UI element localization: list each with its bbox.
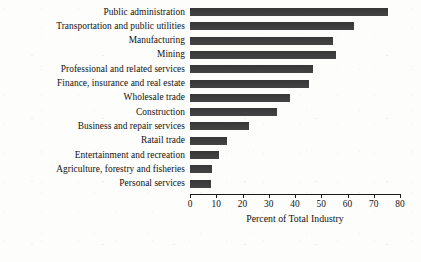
bar (190, 80, 309, 88)
bar (190, 94, 290, 102)
x-axis-tick-label: 60 (343, 199, 352, 209)
category-label: Construction (136, 108, 185, 117)
x-axis-tick-label: 10 (212, 199, 221, 209)
x-axis-title: Percent of Total Industry (190, 213, 400, 224)
category-label: Finance, insurance and real estate (57, 79, 185, 88)
x-axis-tick (190, 194, 191, 198)
category-label: Personal services (119, 179, 185, 188)
bar-chart-figure: Public administrationTransportation and … (0, 0, 421, 262)
x-axis-tick-label: 80 (395, 199, 404, 209)
category-label: Ratail trade (141, 136, 185, 145)
plot-area (190, 8, 400, 194)
x-axis-tick-label: 50 (317, 199, 326, 209)
bar (190, 8, 388, 16)
x-axis-tick (321, 194, 322, 198)
bar (190, 37, 333, 45)
x-axis-tick (348, 194, 349, 198)
category-label: Manufacturing (129, 36, 185, 45)
category-label: Business and repair services (78, 122, 185, 131)
category-label: Public administration (103, 8, 185, 17)
bar (190, 65, 313, 73)
x-axis-tick (374, 194, 375, 198)
category-label: Transportation and public utilities (56, 22, 185, 31)
x-axis-tick-label: 40 (290, 199, 299, 209)
category-label: Professional and related services (61, 65, 185, 74)
x-axis-tick (400, 194, 401, 198)
bar (190, 165, 212, 173)
category-label-axis: Public administrationTransportation and … (0, 8, 188, 194)
x-axis-tick-label: 30 (264, 199, 273, 209)
bar (190, 108, 277, 116)
category-label: Wholesale trade (124, 93, 185, 102)
category-label: Entertainment and recreation (75, 151, 185, 160)
x-axis-tick-label: 0 (188, 199, 193, 209)
x-axis-tick-label: 20 (238, 199, 247, 209)
x-axis-tick (295, 194, 296, 198)
x-axis-tick (243, 194, 244, 198)
bar (190, 137, 227, 145)
bar (190, 180, 211, 188)
category-label: Agriculture, forestry and fisheries (56, 165, 185, 174)
bar (190, 122, 249, 130)
category-label: Mining (157, 50, 185, 59)
x-axis-tick (269, 194, 270, 198)
x-axis-tick-label: 70 (369, 199, 378, 209)
x-axis-tick (216, 194, 217, 198)
bar (190, 22, 354, 30)
bar (190, 151, 219, 159)
bar (190, 51, 336, 59)
